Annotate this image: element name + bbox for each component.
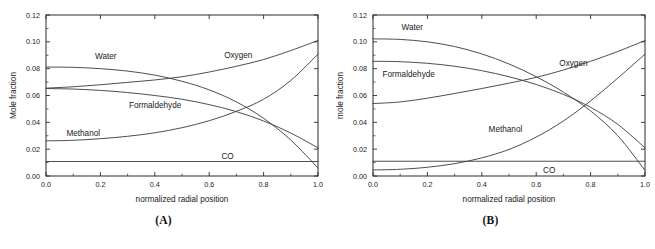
y-tick-label: 0.00 <box>353 172 367 181</box>
y-tick-label: 0.02 <box>26 145 40 154</box>
x-axis-title: normalized radial position <box>463 195 556 204</box>
series-label-co: CO <box>221 152 233 161</box>
series-label-formaldehyde: Formaldehyde <box>129 101 182 110</box>
series-label-water: Water <box>402 23 424 32</box>
x-tick-label: 0.6 <box>204 180 214 189</box>
x-tick-label: 0.4 <box>477 180 487 189</box>
y-tick-label: 0.12 <box>353 11 367 20</box>
y-tick-label: 0.06 <box>353 91 367 100</box>
chart-panel-a: 0.000.020.040.060.080.100.120.00.20.40.6… <box>0 0 327 249</box>
x-tick-label: 0.8 <box>586 180 596 189</box>
x-tick-label: 0.8 <box>259 180 269 189</box>
y-axis-title: Mole fraction <box>9 72 18 119</box>
series-label-co: CO <box>543 166 555 175</box>
series-curve-water <box>373 39 645 170</box>
y-tick-label: 0.12 <box>26 11 40 20</box>
chart-panel-b: 0.000.020.040.060.080.100.120.00.20.40.6… <box>327 0 654 249</box>
plot-area-a: 0.000.020.040.060.080.100.120.00.20.40.6… <box>0 0 327 212</box>
x-tick-label: 0.0 <box>368 180 378 189</box>
series-curve-formaldehyde <box>46 89 318 148</box>
x-tick-label: 0.4 <box>150 180 160 189</box>
panel-caption-a: (A) <box>0 214 327 226</box>
series-curve-water <box>46 67 318 168</box>
panel-caption-b: (B) <box>327 214 654 226</box>
series-label-formaldehyde: Formaldehyde <box>383 70 436 79</box>
figure-container: 0.000.020.040.060.080.100.120.00.20.40.6… <box>0 0 655 249</box>
plot-frame <box>373 15 645 176</box>
y-tick-label: 0.10 <box>353 37 367 46</box>
chart-svg-a: 0.000.020.040.060.080.100.120.00.20.40.6… <box>0 0 327 212</box>
plot-frame <box>46 15 318 176</box>
y-tick-label: 0.04 <box>353 118 367 127</box>
x-axis-title: normalized radial position <box>136 195 229 204</box>
y-tick-label: 0.00 <box>26 172 40 181</box>
y-tick-label: 0.04 <box>26 118 40 127</box>
series-label-methanol: Methanol <box>489 125 523 134</box>
series-label-methanol: Methanol <box>66 129 100 138</box>
x-tick-label: 1.0 <box>313 180 323 189</box>
x-tick-label: 0.2 <box>95 180 105 189</box>
series-label-water: Water <box>95 52 117 61</box>
x-tick-label: 1.0 <box>640 180 650 189</box>
y-tick-label: 0.02 <box>353 145 367 154</box>
y-axis-title: mole fraction <box>336 72 345 119</box>
y-tick-label: 0.10 <box>26 37 40 46</box>
series-label-oxygen: Oxygen <box>559 59 588 68</box>
chart-svg-b: 0.000.020.040.060.080.100.120.00.20.40.6… <box>327 0 654 212</box>
series-label-oxygen: Oxygen <box>224 51 253 60</box>
y-tick-label: 0.08 <box>353 64 367 73</box>
x-tick-label: 0.0 <box>41 180 51 189</box>
x-tick-label: 0.2 <box>422 180 432 189</box>
y-tick-label: 0.06 <box>26 91 40 100</box>
y-tick-label: 0.08 <box>26 64 40 73</box>
x-tick-label: 0.6 <box>531 180 541 189</box>
plot-area-b: 0.000.020.040.060.080.100.120.00.20.40.6… <box>327 0 654 212</box>
